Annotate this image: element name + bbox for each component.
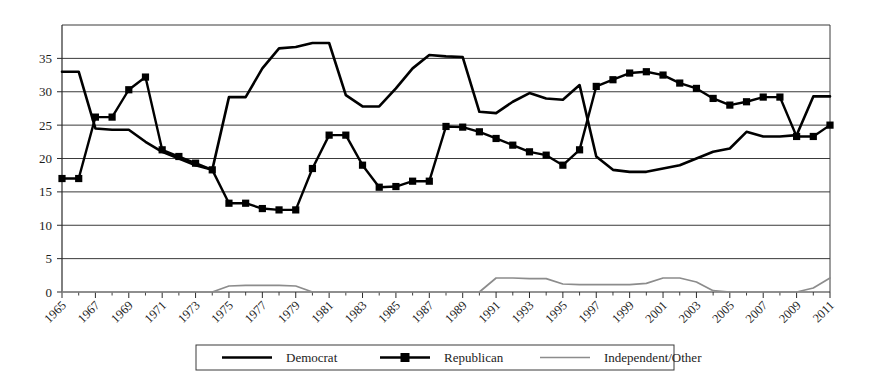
data-point-marker-republican (359, 162, 366, 169)
x-tick-label: 1973 (175, 298, 203, 326)
x-tick-label: 1979 (275, 298, 303, 326)
data-point-marker-republican (92, 114, 99, 121)
legend-label: Democrat (286, 350, 338, 365)
data-point-marker-republican (710, 95, 717, 102)
x-tick-label: 1985 (375, 298, 403, 326)
gridlines (62, 25, 830, 259)
x-tick-label: 2001 (643, 298, 671, 326)
data-series (58, 43, 833, 292)
data-point-marker-republican (58, 175, 65, 182)
data-point-marker-republican (459, 124, 466, 131)
data-point-marker-republican (643, 68, 650, 75)
data-point-marker-republican (342, 132, 349, 139)
data-point-marker-republican (309, 165, 316, 172)
data-point-marker-republican (760, 93, 767, 100)
legend-swatch-square-marker (401, 353, 410, 362)
x-tick-label: 1967 (75, 298, 103, 326)
data-point-marker-republican (175, 153, 182, 160)
x-tick-label: 1965 (42, 298, 70, 326)
x-tick-label: 1987 (409, 298, 437, 326)
data-point-marker-republican (225, 200, 232, 207)
x-tick-label: 1995 (542, 298, 570, 326)
data-point-marker-republican (526, 148, 533, 155)
data-point-marker-republican (376, 184, 383, 191)
data-point-marker-republican (676, 79, 683, 86)
x-tick-label: 1975 (209, 298, 237, 326)
line-chart: 05101520253035 1965196719691971197319751… (0, 0, 869, 390)
data-point-marker-republican (326, 132, 333, 139)
y-tick-label: 25 (39, 118, 52, 133)
x-tick-label: 1983 (342, 298, 370, 326)
data-point-marker-republican (576, 146, 583, 153)
x-tick-label: 2005 (709, 298, 737, 326)
data-point-marker-republican (426, 178, 433, 185)
data-point-marker-republican (776, 93, 783, 100)
data-point-marker-republican (509, 142, 516, 149)
series-line-independent (62, 278, 830, 292)
x-tick-label: 1997 (576, 298, 604, 326)
data-point-marker-republican (259, 205, 266, 212)
data-point-marker-republican (108, 114, 115, 121)
x-tick-label: 1969 (108, 298, 136, 326)
x-tick-label: 1977 (242, 298, 270, 326)
data-point-marker-republican (476, 128, 483, 135)
data-point-marker-republican (392, 183, 399, 190)
data-point-marker-republican (75, 175, 82, 182)
series-line-democrat (62, 43, 830, 172)
data-point-marker-republican (209, 166, 216, 173)
x-axis-ticks (62, 292, 830, 298)
x-tick-label: 1993 (509, 298, 537, 326)
data-point-marker-republican (275, 206, 282, 213)
x-tick-label: 2011 (810, 298, 837, 325)
data-point-marker-republican (125, 86, 132, 93)
y-tick-label: 5 (46, 251, 53, 266)
data-point-marker-republican (159, 146, 166, 153)
x-tick-label: 1999 (609, 298, 637, 326)
y-tick-label: 20 (39, 151, 52, 166)
x-tick-label: 2009 (776, 298, 804, 326)
y-tick-label: 30 (39, 84, 52, 99)
chart-legend[interactable]: DemocratRepublicanIndependent/Other (196, 345, 702, 370)
legend-label: Independent/Other (604, 350, 702, 365)
data-point-marker-republican (292, 206, 299, 213)
data-point-marker-republican (626, 69, 633, 76)
data-point-marker-republican (192, 160, 199, 167)
legend-label: Republican (444, 350, 504, 365)
data-point-marker-republican (492, 135, 499, 142)
data-point-marker-republican (793, 133, 800, 140)
y-tick-label: 0 (46, 285, 53, 300)
data-point-marker-republican (659, 71, 666, 78)
data-point-marker-republican (826, 122, 833, 129)
data-point-marker-republican (409, 178, 416, 185)
x-tick-label: 1991 (476, 298, 504, 326)
x-tick-label: 1989 (442, 298, 470, 326)
y-tick-label: 10 (39, 218, 52, 233)
x-axis-labels: 1965196719691971197319751977197919811983… (42, 298, 838, 326)
data-point-marker-republican (609, 76, 616, 83)
series-line-republican (62, 72, 830, 210)
data-point-marker-republican (559, 162, 566, 169)
data-point-marker-republican (242, 200, 249, 207)
data-point-marker-republican (593, 83, 600, 90)
y-tick-label: 35 (39, 51, 52, 66)
data-point-marker-republican (743, 98, 750, 105)
data-point-marker-republican (442, 123, 449, 130)
x-tick-label: 1971 (142, 298, 170, 326)
data-point-marker-republican (726, 102, 733, 109)
x-tick-label: 2003 (676, 298, 704, 326)
data-point-marker-republican (543, 152, 550, 159)
y-tick-label: 15 (39, 184, 52, 199)
x-tick-label: 1981 (309, 298, 337, 326)
data-point-marker-republican (142, 73, 149, 80)
x-tick-label: 2007 (743, 298, 771, 326)
data-point-marker-republican (693, 85, 700, 92)
data-point-marker-republican (810, 133, 817, 140)
chart-container: 05101520253035 1965196719691971197319751… (0, 0, 869, 390)
